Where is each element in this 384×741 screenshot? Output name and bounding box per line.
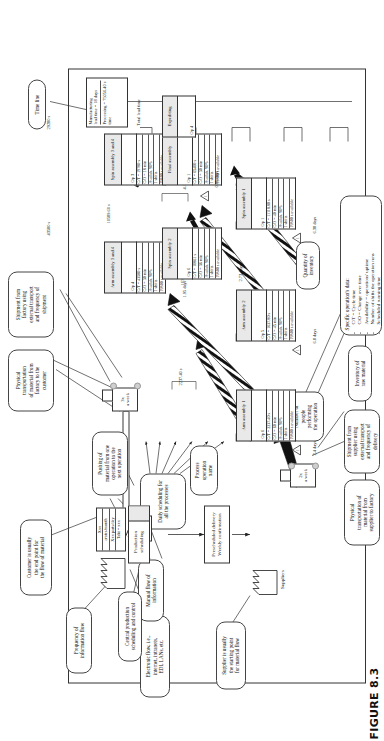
process-data-4-4: 19800 s available: [216, 228, 221, 278]
inventory-triangle-6: I: [200, 190, 209, 201]
process-operators-0: Op 6: [260, 429, 265, 438]
process-operators-3: Op 1: [260, 217, 265, 226]
outbound-truck-wheel-rear: [134, 382, 141, 389]
timeline-summary-box: Manufacturinglead time = 18 days Process…: [86, 77, 128, 127]
process-inventory-days-0: 2.4 days: [312, 440, 317, 455]
process-name-1: Arm assembly 2: [236, 289, 252, 341]
process-data-0: C/T = 2237.40 s C/O = 60 min Availab. 90…: [267, 389, 296, 441]
process-operators-4: Op 6: [186, 267, 191, 276]
svg-text:I: I: [295, 236, 300, 238]
process-data-3-4: 19800 s available: [290, 178, 295, 228]
supplier-icon: [250, 565, 278, 595]
process-box-arm-assembly-3-4[interactable]: Arm assembly 3 and 4 Op 4 C/T = 43580 s …: [104, 241, 166, 293]
customer-icon: [96, 555, 126, 589]
customer-data-table: Xxx crates/month Xxx parts/day Takt = xx…: [96, 507, 126, 551]
callout-pushing-material: Pushing ofmaterial from oneoperation to …: [92, 431, 128, 495]
process-cycle-time-2: 43580 s: [46, 221, 51, 235]
prescheduled-delivery-box: Prescheduled deliveryWeekly confirmation: [204, 505, 230, 563]
svg-text:I: I: [295, 448, 300, 450]
process-name-7: Expediting: [162, 95, 178, 137]
outbound-truck-box: 3x a week: [112, 387, 138, 411]
production-scheduling-band: [129, 506, 149, 521]
inventory-triangle-3: I: [292, 232, 301, 243]
process-box-spin-assembly-1[interactable]: Spin assembly 1 Op 1 C/T = 11118.80 s C/…: [236, 177, 296, 229]
customer-factory-glyph: [96, 555, 126, 589]
process-operators-6: Op 1: [186, 173, 191, 182]
callout-supplier: Supplier is usuallythe starting pointfor…: [216, 621, 246, 689]
process-box-arm-assembly-1[interactable]: Arm assembly 1 Op 6 C/T = 2237.40 s C/O …: [236, 389, 296, 441]
process-box-spin-assembly-2[interactable]: Spin assembly 2 Op 6 C/T = 10861 s C/O =…: [162, 227, 222, 279]
process-box-spin-assembly-3-4[interactable]: Spin assembly 3 and 4 Op 3 C/T = 19780 s…: [104, 133, 166, 185]
process-data-4: C/T = 10861 s C/O = 36 min Availab. 90% …: [193, 227, 222, 279]
process-data-0-4: 19800 s available: [290, 390, 295, 440]
process-name-4: Spin assembly 2: [162, 227, 178, 279]
process-operators-5: Op 3: [130, 173, 135, 182]
process-cycle-time-0: 2237.40 s: [178, 368, 183, 385]
process-name-3: Spin assembly 1: [236, 177, 252, 229]
inventory-triangle-1: I: [292, 344, 301, 355]
specific-operation-title: Specific operation's data:: [344, 200, 350, 330]
supplier-label: Suppliers: [280, 559, 286, 599]
process-operator-cell-3: Op 1: [252, 177, 267, 229]
production-scheduling-box: Productionscheduling: [128, 505, 150, 563]
inbound-truck-wheel-rear: [312, 462, 319, 469]
customer-data-3: Takt = xxx: [116, 508, 121, 550]
callout-physical-transport-to-customer: Physicaltransportationof material fromfa…: [8, 349, 54, 411]
process-inventory-days-6: 0.85 days: [214, 170, 219, 187]
process-operator-cell-0: Op 6: [252, 389, 267, 441]
process-box-arm-assembly-2[interactable]: Arm assembly 2 Op 5 C/T = 1637.80 s C/O …: [236, 289, 296, 341]
process-operator-cell-4: Op 6: [178, 227, 193, 279]
callout-process-operation-name: Processoperationname: [190, 445, 218, 495]
process-box-expediting[interactable]: Expediting Op 4: [162, 95, 196, 137]
callout-time-line: Time line: [28, 79, 46, 129]
process-operators-2: Op 4: [130, 281, 135, 290]
callout-central-scheduling: Central productionscheduling and control: [118, 591, 142, 661]
process-name-6: Final assembly: [162, 133, 178, 185]
timeline-lead-time: Manufacturinglead time = 18 days: [88, 80, 101, 124]
value-stream-map-canvas: Electronic flow, i.e.,internet, intranet…: [0, 0, 384, 741]
process-name-0: Arm assembly 1: [236, 389, 252, 441]
process-cycle-time-5: 29280 s: [46, 115, 51, 129]
callout-customer-endpoint: Customer is usuallythe end point forthe …: [20, 519, 52, 595]
process-inventory-days-4: 2.73 days: [238, 264, 243, 281]
outbound-truck-wheel-front: [110, 382, 117, 389]
supplier-factory-glyph: [250, 565, 278, 595]
process-name-5: Spin assembly 3 and 4: [104, 133, 122, 185]
process-data-1-4: 19800 s available: [290, 290, 295, 340]
callout-frequency-info: Frequency ofinformation flow: [66, 607, 92, 673]
process-operator-cell-6: Op 1: [178, 133, 193, 185]
process-operator-cell-7: Op 4: [178, 95, 196, 137]
timeline-total-lead-time-label: Total lead time: [136, 99, 141, 125]
inbound-truck-cab: [280, 469, 291, 481]
process-cycle-time-4: 10589.60 s: [106, 204, 111, 223]
callout-quantity-of-inventory: Quantity ofinventory: [296, 241, 320, 289]
callout-electronic-flow: Electronic flow, i.e.,internet, intranet…: [140, 615, 170, 697]
process-inventory-days-3: 6.38 days: [312, 216, 317, 233]
process-operators-7: Op 4: [189, 125, 194, 134]
process-operator-cell-2: Op 4: [122, 241, 137, 293]
process-operators-1: Op 5: [260, 329, 265, 338]
process-data-1: C/T = 1637.80 s C/O = 45 min Availab. 90…: [267, 289, 296, 341]
inventory-triangle-0: I: [292, 444, 301, 455]
process-inventory-days-1: 6.8 days: [312, 328, 317, 343]
process-operator-cell-5: Op 3: [122, 133, 137, 185]
figure-caption: FIGURE 8.3: [368, 0, 381, 739]
outbound-truck-freq-bottom: a week: [125, 393, 131, 406]
timeline-processing-time: Processing = 75056.40 stime: [102, 80, 114, 124]
process-inventory-days-2: 1.95 days: [182, 280, 187, 297]
svg-text:I: I: [295, 348, 300, 350]
outbound-truck-cab: [102, 389, 113, 401]
process-data-3: C/T = 11118.80 s C/O = 40 min Availab. 9…: [267, 177, 296, 229]
inbound-truck-freq-bottom: a week: [303, 469, 309, 482]
svg-text:I: I: [203, 194, 208, 196]
inbound-truck-wheel-front: [288, 462, 295, 469]
production-scheduling-label: Productionscheduling: [129, 521, 149, 562]
process-name-2: Arm assembly 3 and 4: [104, 241, 122, 293]
figure-rotation-wrapper: Electronic flow, i.e.,internet, intranet…: [0, 0, 384, 741]
callout-shipment-from-factory: Shipment fromfactory usingexternal trans…: [8, 271, 54, 337]
process-operator-cell-1: Op 5: [252, 289, 267, 341]
